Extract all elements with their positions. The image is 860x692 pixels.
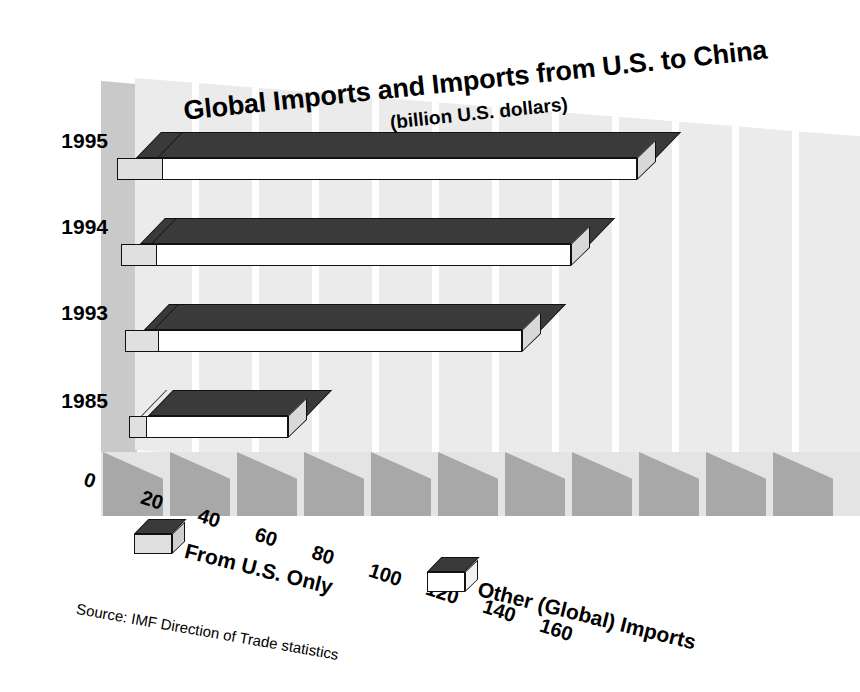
bar-segment-other-global-imports-1993[interactable]	[158, 330, 523, 352]
y-axis-label-1994: 1994	[28, 215, 108, 239]
chart-3d-scene: 1995 1994 1993 1985 02040608010012014016…	[0, 0, 860, 692]
bar-1995[interactable]	[117, 132, 656, 180]
bar-top-face-1995	[136, 132, 681, 158]
bar-segment-other-global-imports-1994[interactable]	[156, 244, 571, 266]
x-axis-tick-80: 80	[309, 541, 337, 570]
legend-item-other-global-imports[interactable]: Other (Global) Imports	[427, 557, 478, 592]
legend-swatch-front-face	[427, 572, 465, 592]
x-axis-tick-60: 60	[252, 523, 280, 552]
bar-top-face-1993	[144, 304, 566, 330]
bar-1994[interactable]	[121, 218, 590, 266]
bar-segment-from-us-only-1995[interactable]	[117, 158, 163, 180]
bar-segment-from-us-only-1994[interactable]	[121, 244, 157, 266]
legend-swatch-from-us-only	[134, 519, 185, 554]
gridline	[792, 131, 799, 504]
bar-segment-from-us-only-1993[interactable]	[125, 330, 159, 352]
x-axis-tick-0: 0	[81, 468, 99, 493]
x-axis-tick-100: 100	[366, 559, 405, 591]
gridline	[672, 121, 679, 494]
legend-swatch-front-face	[134, 534, 172, 554]
legend-label-from-us-only: From U.S. Only	[182, 539, 335, 599]
bar-segment-other-global-imports-1995[interactable]	[162, 158, 637, 180]
chart-floor	[101, 452, 860, 516]
legend-swatch-other-global-imports	[427, 557, 478, 592]
bar-segment-other-global-imports-1985[interactable]	[146, 416, 288, 438]
bar-1985[interactable]	[129, 390, 307, 438]
chart-canvas: 1995 1994 1993 1985 02040608010012014016…	[0, 0, 860, 692]
bar-segment-from-us-only-1985[interactable]	[129, 416, 147, 438]
legend-item-from-us-only[interactable]: From U.S. Only	[134, 519, 185, 554]
y-axis-label-1995: 1995	[28, 129, 108, 153]
bar-1993[interactable]	[125, 304, 541, 352]
source-note: Source: IMF Direction of Trade statistic…	[75, 600, 340, 663]
y-axis-label-1985: 1985	[28, 389, 108, 413]
y-axis-label-1993: 1993	[28, 301, 108, 325]
bar-top-face-1994	[140, 218, 615, 244]
gridline	[732, 126, 739, 499]
